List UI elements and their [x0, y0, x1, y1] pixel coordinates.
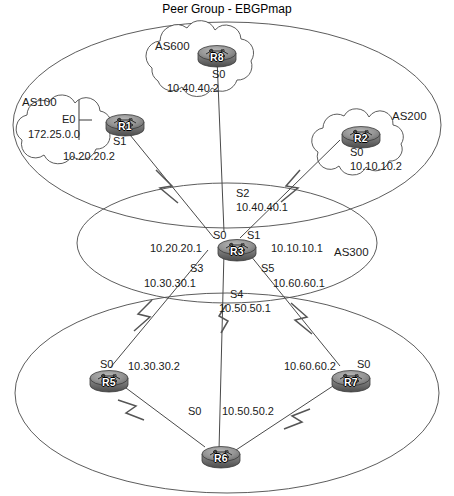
port-r8-s0-ip: 10.40.40.2 [167, 82, 219, 94]
router-r5[interactable]: R5 [88, 370, 130, 392]
port-r3-s0-ip: 10.20.20.1 [150, 242, 202, 254]
router-label-r1: R1 [104, 120, 146, 132]
port-r3-s4-ip: 10.50.50.1 [219, 302, 271, 314]
port-r3-s5-ip: 10.60.60.1 [273, 277, 325, 289]
router-r2[interactable]: R2 [340, 126, 382, 148]
port-r3-s1-name: S1 [247, 229, 260, 241]
port-r3-s3-ip: 10.30.30.1 [144, 277, 196, 289]
router-label-r5: R5 [88, 376, 130, 388]
port-r6-s0-ip: 10.50.50.2 [222, 405, 274, 417]
port-r1-e0-ip: 172.25.0.0 [28, 128, 80, 140]
port-r7-s0-ip: 10.60.60.2 [284, 360, 336, 372]
port-r3-s0-name: S0 [213, 229, 226, 241]
port-r2-s0-name: S0 [350, 146, 363, 158]
router-label-r2: R2 [340, 132, 382, 144]
port-r1-s1-name: S1 [113, 135, 126, 147]
port-r6-s0-name: S0 [188, 405, 201, 417]
router-r3[interactable]: R3 [216, 239, 258, 261]
router-label-r7: R7 [330, 376, 372, 388]
port-r7-s0-name: S0 [357, 358, 370, 370]
router-label-r6: R6 [200, 452, 242, 464]
cloud-label-as600: AS600 [155, 40, 190, 52]
port-r1-e0-name: E0 [62, 113, 75, 125]
port-r5-s0-name: S0 [100, 358, 113, 370]
port-r2-s0-ip: 10.10.10.2 [350, 160, 402, 172]
port-r3-s4-name: S4 [230, 288, 243, 300]
router-r8[interactable]: R8 [196, 45, 238, 67]
port-r3-s2-name: S2 [236, 187, 249, 199]
router-r6[interactable]: R6 [200, 446, 242, 468]
port-r3-s2-ip: 10.40.40.1 [236, 201, 288, 213]
cloud-label-as100: AS100 [22, 96, 57, 108]
port-r3-s1-ip: 10.10.10.1 [271, 242, 323, 254]
router-r7[interactable]: R7 [330, 370, 372, 392]
router-label-r3: R3 [216, 245, 258, 257]
port-r3-s5-name: S5 [261, 262, 274, 274]
port-r3-s3-name: S3 [190, 262, 203, 274]
port-r8-s0-name: S0 [212, 68, 225, 80]
cloud-label-as200: AS200 [392, 110, 427, 122]
network-diagram: Peer Group - EBGPmap [0, 0, 454, 496]
router-r1[interactable]: R1 [104, 114, 146, 136]
port-r5-s0-ip: 10.30.30.2 [128, 360, 180, 372]
port-r1-s1-ip: 10.20.20.2 [63, 150, 115, 162]
cloud-label-as300: AS300 [334, 246, 369, 258]
router-label-r8: R8 [196, 51, 238, 63]
